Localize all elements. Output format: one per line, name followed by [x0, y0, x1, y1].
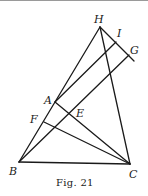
label-F: F: [29, 113, 38, 126]
label-E: E: [75, 107, 84, 120]
label-I: I: [116, 27, 122, 40]
geometry-figure: H I G A E F B C Fig. 21: [0, 0, 148, 196]
figure-caption: Fig. 21: [56, 177, 94, 188]
label-A: A: [43, 94, 52, 107]
label-C: C: [129, 168, 138, 181]
segment-BC: [19, 162, 130, 164]
label-B: B: [8, 165, 17, 178]
label-H: H: [93, 13, 104, 26]
label-G: G: [130, 44, 139, 57]
